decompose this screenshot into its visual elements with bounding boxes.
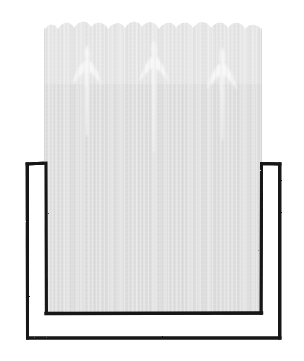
illustration-svg [0,0,304,361]
figure-canvas: Textile panel over U-shaped channel fram… [0,0,304,361]
u-bracket-inner-bottom [46,313,262,314]
fabric-panel [40,14,270,319]
panel-weave-topcoat [40,14,270,319]
